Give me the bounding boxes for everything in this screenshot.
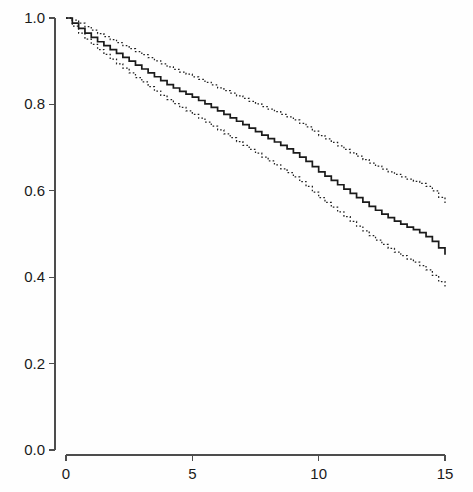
y-axis-tick-labels: 0.00.20.40.60.81.0: [24, 9, 45, 458]
lower-confidence-band-line: [66, 18, 445, 288]
survival-chart: 0.00.20.40.60.81.0 051015: [0, 0, 473, 492]
x-tick-label: 10: [310, 465, 327, 482]
y-tick-label: 0.2: [24, 355, 45, 372]
x-tick-label: 5: [188, 465, 196, 482]
survival-estimate-line: [66, 18, 445, 255]
y-tick-label: 0.0: [24, 441, 45, 458]
plot-area: 0.00.20.40.60.81.0 051015: [0, 0, 473, 492]
y-tick-label: 0.8: [24, 95, 45, 112]
x-tick-label: 0: [62, 465, 70, 482]
x-axis-ticks: [66, 455, 445, 461]
y-tick-label: 0.6: [24, 182, 45, 199]
y-tick-label: 1.0: [24, 9, 45, 26]
x-tick-label: 15: [437, 465, 454, 482]
y-axis-ticks: [49, 18, 55, 450]
upper-confidence-band-line: [66, 18, 445, 204]
y-tick-label: 0.4: [24, 268, 45, 285]
x-axis-tick-labels: 051015: [62, 465, 454, 482]
